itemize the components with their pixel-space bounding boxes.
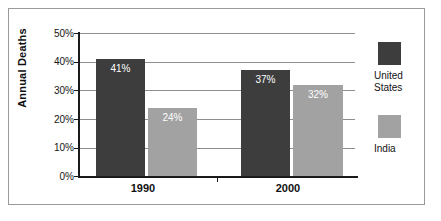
- y-tick-label-40: 40%: [34, 56, 74, 67]
- y-tick-label-20: 20%: [34, 114, 74, 125]
- bar-india-2000[interactable]: 32%: [293, 85, 343, 177]
- legend-label-india: India: [374, 143, 430, 155]
- y-tick-label-30: 30%: [34, 85, 74, 96]
- bar-value-label: 32%: [293, 89, 343, 100]
- legend-swatch-india: [378, 115, 401, 138]
- chart-figure: Annual Deaths 50% 40% 30% 20% 10% 0% 41%…: [0, 0, 441, 221]
- bar-value-label: 24%: [148, 112, 197, 123]
- bar-india-1990[interactable]: 24%: [148, 108, 197, 177]
- y-tick-label-10: 10%: [34, 142, 74, 153]
- legend-label-united-states-line1: United: [374, 70, 430, 82]
- legend-swatch-united-states: [378, 42, 401, 65]
- x-category-label-2000: 2000: [233, 182, 343, 194]
- y-tick-label-50: 50%: [34, 28, 74, 39]
- y-tick-label-0: 0%: [34, 171, 74, 182]
- gridline-50: [78, 33, 355, 34]
- x-category-label-1990: 1990: [88, 182, 198, 194]
- plot-area: 41% 24% 37% 32%: [78, 33, 355, 177]
- y-axis-line: [78, 32, 80, 178]
- bar-value-label: 41%: [96, 63, 145, 74]
- bar-value-label: 37%: [241, 74, 290, 85]
- legend-label-united-states-line2: States: [374, 82, 430, 94]
- x-tick-mark-mid: [217, 178, 218, 182]
- bar-united-states-1990[interactable]: 41%: [96, 59, 145, 177]
- y-axis-title: Annual Deaths: [16, 8, 28, 128]
- bar-united-states-2000[interactable]: 37%: [241, 70, 290, 177]
- x-axis-line: [78, 176, 358, 178]
